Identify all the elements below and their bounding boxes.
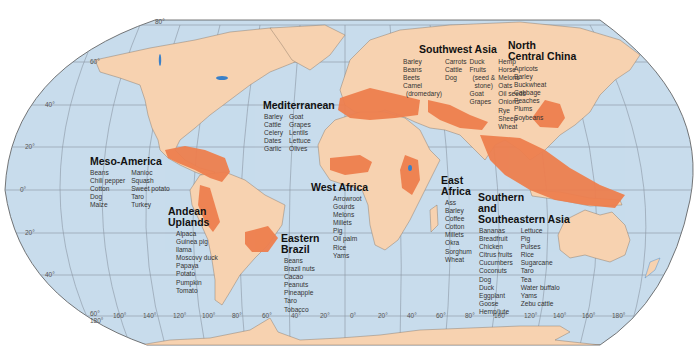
lat-label-eq: 0° [20,186,26,193]
lat-label-20n: 20° [25,143,35,150]
region-north-central-china: North Central China Apricots Barley Buck… [508,40,576,122]
region-meso-america: Meso-America Beans Chili pepper Cotton D… [90,156,170,209]
lat-label-80n: 80° [155,18,165,25]
region-southern-southeastern-asia: Southern and Southeastern Asia Bananas B… [478,192,570,316]
region-east-africa: East Africa Ass Barley Coffee Cotton Mil… [441,175,472,264]
region-mediterranean: Mediterranean Barley Cattle Celery Dates… [263,100,335,153]
lat-label-40n: 40° [45,101,55,108]
region-andean-uplands: Andean Uplands Alpaca Guinea pig llama M… [168,206,218,295]
region-west-africa: West Africa Arrowroot Gourds Melons Mill… [311,182,368,260]
longitude-labels: 180° 160° 140° 120° 100° 80° 60° 40° 20°… [0,312,696,324]
lat-label-60n: 60° [90,58,100,65]
lat-label-20s: 20° [25,229,35,236]
region-title: Meso-America [90,156,170,167]
lat-label-40s: 40° [45,271,55,278]
